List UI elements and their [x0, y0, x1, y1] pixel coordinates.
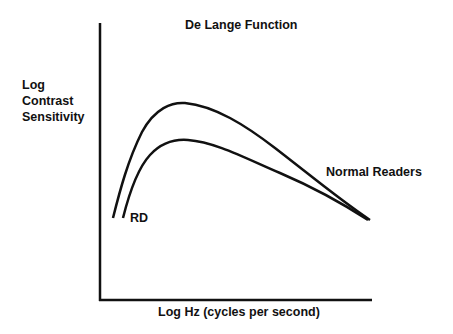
- rd-label: RD: [130, 211, 148, 225]
- rd-curve: [123, 140, 368, 220]
- x-axis-label: Log Hz (cycles per second): [158, 305, 320, 319]
- normal-readers-curve: [113, 103, 370, 220]
- normal-readers-label: Normal Readers: [326, 165, 422, 179]
